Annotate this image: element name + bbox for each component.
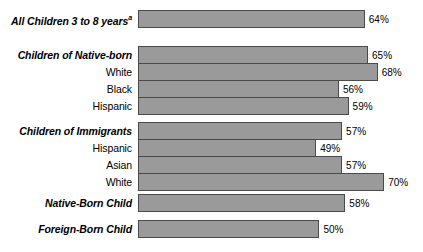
bar-track: 57% [138, 122, 423, 140]
bar-value-label: 57% [342, 126, 366, 137]
bar-value-label: 59% [349, 101, 373, 112]
bar-label: Children of Immigrants [0, 125, 138, 137]
bar-track: 65% [138, 46, 423, 64]
bar-track: 59% [138, 97, 423, 115]
chart-row: Children of Immigrants57% [0, 122, 423, 140]
bar-label: White [0, 66, 138, 78]
bar [138, 97, 349, 115]
bar-value-label: 70% [384, 177, 408, 188]
bar [138, 63, 378, 81]
bar-value-label: 56% [339, 84, 363, 95]
bar-value-label: 50% [319, 224, 343, 235]
chart-row: White70% [0, 173, 423, 191]
bar-track: 50% [138, 220, 423, 238]
chart-row: White68% [0, 63, 423, 81]
chart-row: All Children 3 to 8 yearsa64% [0, 10, 423, 28]
bar-track: 56% [138, 80, 423, 98]
bar-label: White [0, 176, 138, 188]
bar [138, 139, 316, 157]
chart-row: Hispanic49% [0, 139, 423, 157]
bar-label: Hispanic [0, 142, 138, 154]
chart-row: Foreign-Born Child50% [0, 220, 423, 238]
footnote-marker: a [128, 14, 132, 21]
chart-row: Hispanic59% [0, 97, 423, 115]
bar-label: Black [0, 83, 138, 95]
bar [138, 194, 345, 212]
bar-label: All Children 3 to 8 yearsa [0, 12, 138, 27]
bar [138, 156, 342, 174]
bar-label: Hispanic [0, 100, 138, 112]
bar-label: Native-Born Child [0, 197, 138, 209]
bar-value-label: 64% [365, 14, 389, 25]
bar-value-label: 65% [368, 50, 392, 61]
bar [138, 122, 342, 140]
bar [138, 80, 339, 98]
bar [138, 10, 365, 28]
bar-value-label: 58% [345, 198, 369, 209]
chart-row: Asian57% [0, 156, 423, 174]
chart-row: Black56% [0, 80, 423, 98]
bar-track: 57% [138, 156, 423, 174]
bar-label: Children of Native-born [0, 49, 138, 61]
chart-row: Children of Native-born65% [0, 46, 423, 64]
bar-label: Foreign-Born Child [0, 223, 138, 235]
bar [138, 220, 319, 238]
bar-value-label: 49% [316, 143, 340, 154]
bar-track: 64% [138, 10, 423, 28]
bar-label: Asian [0, 159, 138, 171]
bar [138, 46, 368, 64]
bar-chart: All Children 3 to 8 yearsa64%Children of… [0, 0, 423, 252]
bar [138, 173, 384, 191]
bar-track: 58% [138, 194, 423, 212]
bar-value-label: 68% [378, 67, 402, 78]
bar-track: 49% [138, 139, 423, 157]
bar-value-label: 57% [342, 160, 366, 171]
chart-row: Native-Born Child58% [0, 194, 423, 212]
bar-track: 68% [138, 63, 423, 81]
bar-track: 70% [138, 173, 423, 191]
